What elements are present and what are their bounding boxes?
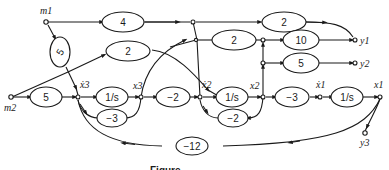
edge-fb2 xyxy=(248,97,263,118)
edge-m1-5 xyxy=(48,25,55,38)
edge-top-x2dot xyxy=(193,22,200,97)
label-x2: x2 xyxy=(249,80,259,91)
label-x1: x1 xyxy=(373,79,383,90)
label-x3dot: ẋ3 xyxy=(79,79,89,90)
node-m1 xyxy=(44,20,48,24)
gain-int1: 1/s xyxy=(331,87,363,107)
node-x2 xyxy=(261,95,265,99)
svg-text:2: 2 xyxy=(281,17,287,28)
gain-top-2: 2 xyxy=(262,12,306,32)
node-x3 xyxy=(139,95,143,99)
svg-text:−3: −3 xyxy=(286,92,298,103)
svg-text:−3: −3 xyxy=(106,113,118,124)
gain-m2g: −2 xyxy=(156,87,190,107)
label-x3: x3 xyxy=(132,80,142,91)
gain-fb3: −3 xyxy=(97,109,127,127)
svg-text:−2: −2 xyxy=(227,113,239,124)
gain-int2: 1/s xyxy=(216,87,248,107)
gain-m1-5: 5 xyxy=(50,37,70,67)
figure-caption: Figure xyxy=(150,165,181,170)
svg-text:1/s: 1/s xyxy=(225,92,238,103)
svg-text:1/s: 1/s xyxy=(340,92,353,103)
svg-text:5: 5 xyxy=(298,58,304,69)
gain-m3: −3 xyxy=(275,87,309,107)
gain-upper-2: 2 xyxy=(106,41,150,61)
label-x2dot: ẋ2 xyxy=(201,79,211,90)
node-top xyxy=(191,20,195,24)
svg-text:−2: −2 xyxy=(167,92,179,103)
node-y3 xyxy=(363,131,367,135)
gain-10: 10 xyxy=(283,30,319,50)
node-y1 xyxy=(353,38,357,42)
edge-x3dot-up xyxy=(68,55,104,72)
node-y2 xyxy=(353,61,357,65)
gain-m2-5: 5 xyxy=(30,87,62,107)
gain-fb12: −12 xyxy=(176,137,208,155)
label-m1: m1 xyxy=(40,5,52,16)
node-x1 xyxy=(378,95,382,99)
node-x2dot xyxy=(198,95,202,99)
gain-int3: 1/s xyxy=(96,87,128,107)
label-y3: y3 xyxy=(359,137,369,148)
node-m2 xyxy=(9,95,13,99)
svg-text:2: 2 xyxy=(231,35,237,46)
gain-mid-2: 2 xyxy=(212,30,256,50)
gain-4: 4 xyxy=(102,12,144,32)
node-y2j xyxy=(261,61,265,65)
node-mid xyxy=(194,38,197,41)
svg-text:−12: −12 xyxy=(184,141,201,152)
label-x1dot: ẋ1 xyxy=(315,79,325,90)
svg-text:5: 5 xyxy=(43,92,49,103)
node-y1j xyxy=(261,38,265,42)
edge-5b xyxy=(76,88,78,95)
label-y2: y2 xyxy=(359,58,369,69)
svg-text:4: 4 xyxy=(120,17,126,28)
gain-5-y2: 5 xyxy=(283,53,319,73)
signal-flow-graph: 4 2 5 2 2 10 5 5 1/s −3 −2 1/s xyxy=(0,0,389,170)
svg-text:1/s: 1/s xyxy=(105,92,118,103)
label-m2: m2 xyxy=(4,102,16,113)
label-y1: y1 xyxy=(359,35,369,46)
node-x3dot xyxy=(76,95,80,99)
gain-fb2: −2 xyxy=(218,109,248,127)
node-x1dot xyxy=(318,95,322,99)
svg-text:2: 2 xyxy=(125,46,131,57)
edge-fb2-ret xyxy=(200,100,218,118)
edge-2-y1-arrow xyxy=(306,22,325,23)
svg-text:10: 10 xyxy=(295,35,307,46)
